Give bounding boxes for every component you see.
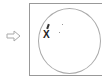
next-arrow-button[interactable] (6, 28, 22, 40)
arrow-right-icon (6, 30, 22, 42)
circle-shape (38, 8, 101, 74)
x-marker: X (43, 30, 50, 40)
dot (59, 32, 60, 33)
dot (62, 24, 63, 25)
